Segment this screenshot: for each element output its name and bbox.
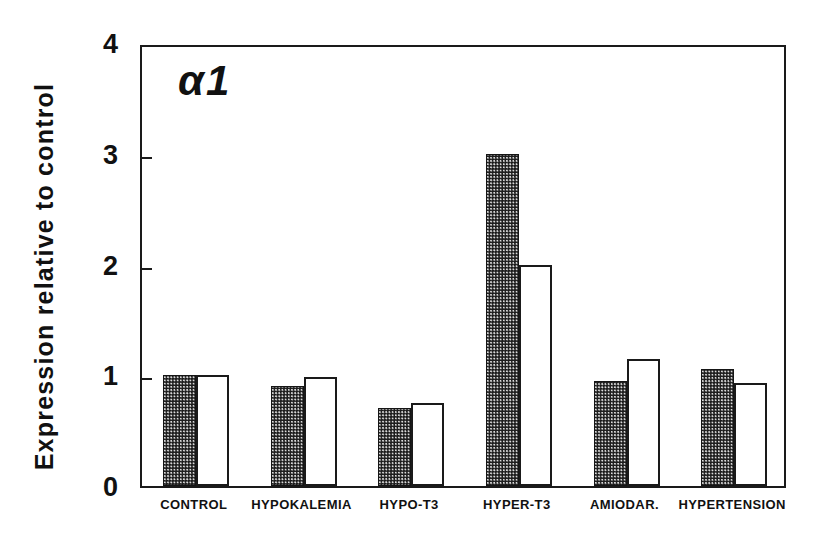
y-tick-label: 1 <box>84 363 118 390</box>
bar-filled <box>594 381 627 486</box>
y-tick-mark <box>142 378 152 380</box>
y-tick-label: 2 <box>84 253 118 280</box>
y-tick-label: 4 <box>84 31 118 58</box>
bar-filled <box>163 375 196 486</box>
y-tick-mark <box>142 268 152 270</box>
y-axis-tick-labels: 01234 <box>72 0 118 556</box>
y-tick-label: 0 <box>84 474 118 501</box>
bar-open <box>734 383 767 486</box>
y-tick-label: 3 <box>84 142 118 169</box>
panel-label: α1 <box>178 57 231 105</box>
x-tick-label: HYPER-T3 <box>463 497 571 512</box>
bar-open <box>196 375 229 486</box>
x-tick-label: HYPO-T3 <box>355 497 463 512</box>
x-axis-tick-labels: CONTROLHYPOKALEMIAHYPO-T3HYPER-T3AMIODAR… <box>140 497 786 521</box>
bar-open <box>304 377 337 486</box>
x-tick-label: AMIODAR. <box>571 497 679 512</box>
bar-filled <box>486 154 519 486</box>
bar-open <box>519 265 552 487</box>
x-tick-label: CONTROL <box>140 497 248 512</box>
plot-area: α1 <box>140 45 786 488</box>
bar-filled <box>378 408 411 486</box>
y-tick-mark <box>142 157 152 159</box>
bar-open <box>627 359 660 486</box>
x-tick-label: HYPERTENSION <box>678 497 786 512</box>
y-axis-title: Expression relative to control <box>30 47 59 507</box>
bar-filled <box>701 369 734 486</box>
bar-filled <box>271 386 304 486</box>
bar-chart-figure: Expression relative to control 01234 α1 … <box>0 0 827 556</box>
bar-open <box>411 403 444 486</box>
x-tick-label: HYPOKALEMIA <box>248 497 356 512</box>
